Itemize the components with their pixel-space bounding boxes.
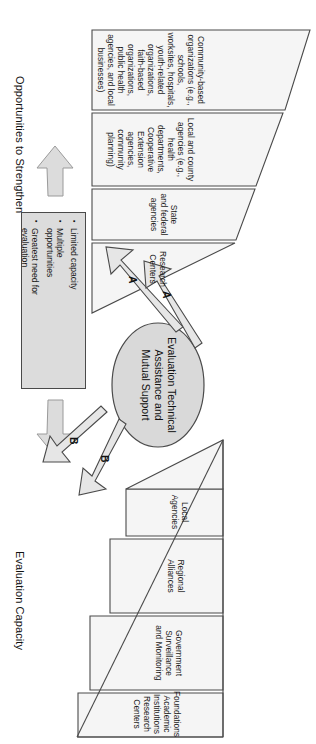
bottom-triangle-band-label-2: Government Surveillance and Monitoring <box>154 617 184 689</box>
arrow-label-b-lower: B <box>68 437 80 445</box>
bottom-triangle-apex <box>126 440 223 489</box>
bottom-triangle-band-label-0: Local Agencies <box>170 489 190 535</box>
bottom-triangle-band-label-1: Regional Alliances <box>166 540 186 612</box>
top-triangle-band-label-1: Local and county agencies (e.g., health … <box>106 114 196 185</box>
block-arrow-to-top <box>37 146 73 196</box>
bottom-triangle-band-label-3: Foundations Academic Institutions Resear… <box>132 690 182 738</box>
diagram-root: .tri-band{fill:#f5f5f5;stroke:#4a4a4a;st… <box>0 0 316 744</box>
arrow-label-a-lower: A <box>161 291 173 299</box>
callout-bullet-2: Greatest need for evaluation <box>20 228 40 382</box>
axis-label-opportunities: Opportunities to Strengthen <box>14 76 26 213</box>
diagram-canvas: .tri-band{fill:#f5f5f5;stroke:#4a4a4a;st… <box>0 0 316 744</box>
arrow-label-b-upper: B <box>99 455 111 463</box>
arrow-label-a-upper: A <box>127 276 139 284</box>
callout-bullet-1: Multiple opportunities <box>44 228 64 382</box>
callout-bullet-0: Limited capacity <box>69 228 79 382</box>
callout-box: Limited capacity Multiple opportunities … <box>21 212 86 389</box>
top-triangle-band-label-3: Research Centers <box>148 244 168 294</box>
top-triangle-band-label-2: State and federal agencies <box>149 190 179 239</box>
center-ellipse-label: Evaluation Technical Assistance and Mutu… <box>139 325 178 445</box>
top-triangle-band-label-0: Community-based organizations (e.g., sch… <box>96 32 206 108</box>
axis-label-evaluation-capacity: Evaluation Capacity <box>14 551 26 650</box>
callout-bullet-list: Limited capacity Multiple opportunities … <box>10 213 85 388</box>
